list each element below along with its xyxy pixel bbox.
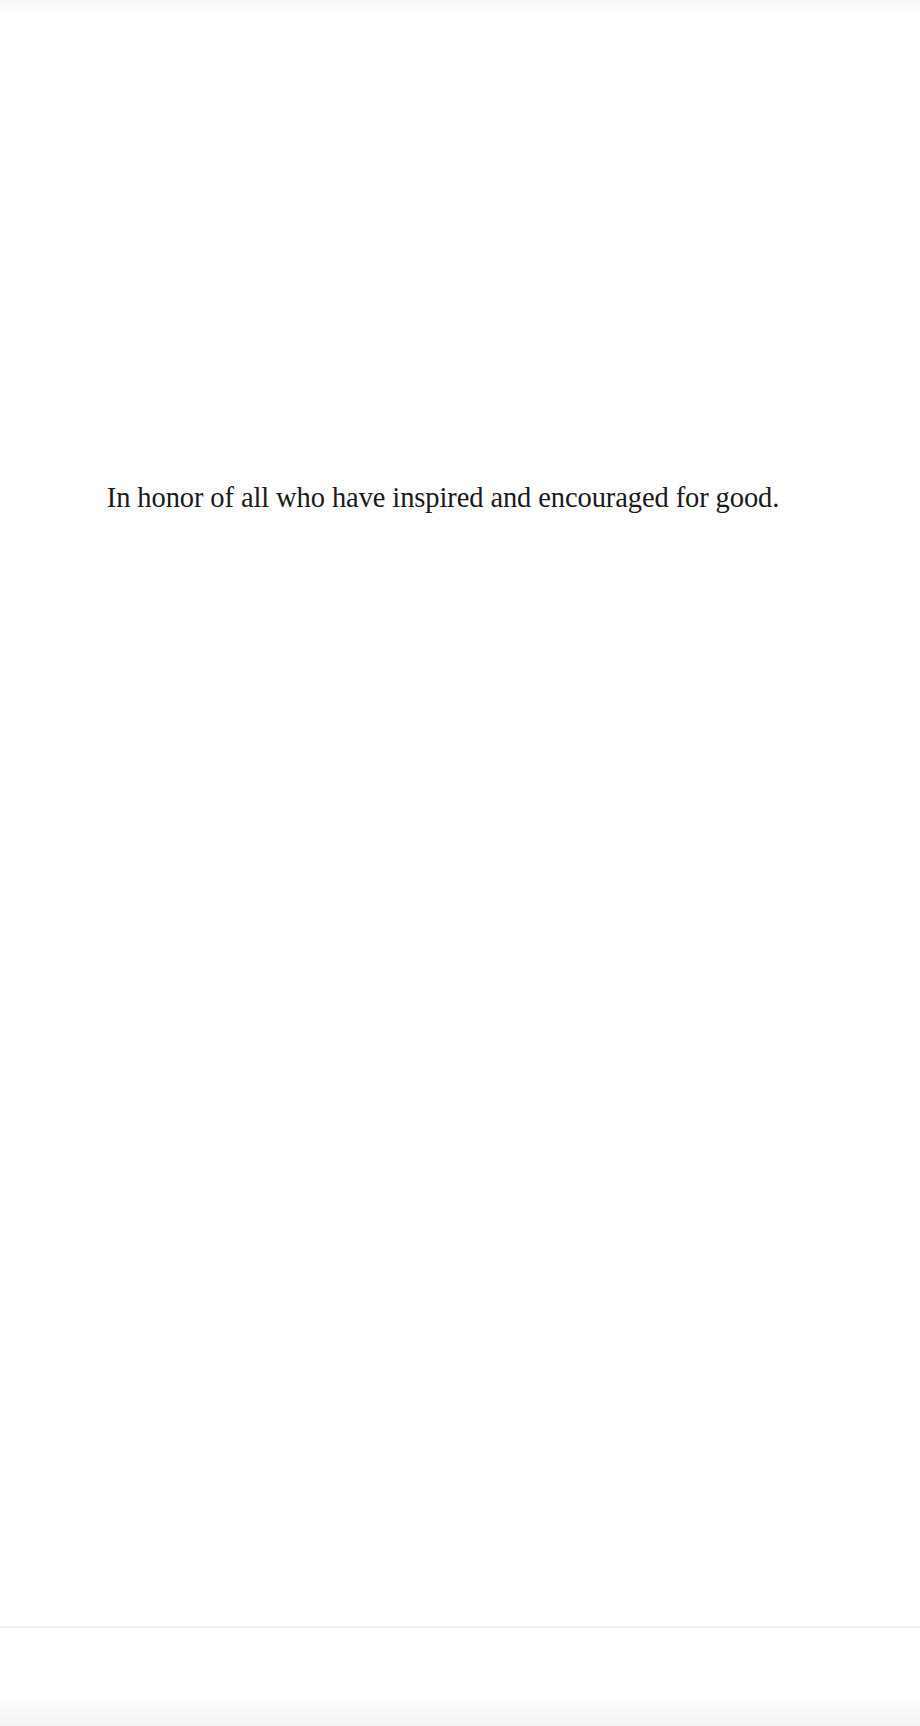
book-page: In honor of all who have inspired and en… xyxy=(0,0,920,1726)
scan-edge-bottom xyxy=(0,1696,920,1726)
scan-edge-top xyxy=(0,0,920,14)
dedication-text: In honor of all who have inspired and en… xyxy=(0,478,886,518)
scan-edge-line xyxy=(0,1626,920,1628)
